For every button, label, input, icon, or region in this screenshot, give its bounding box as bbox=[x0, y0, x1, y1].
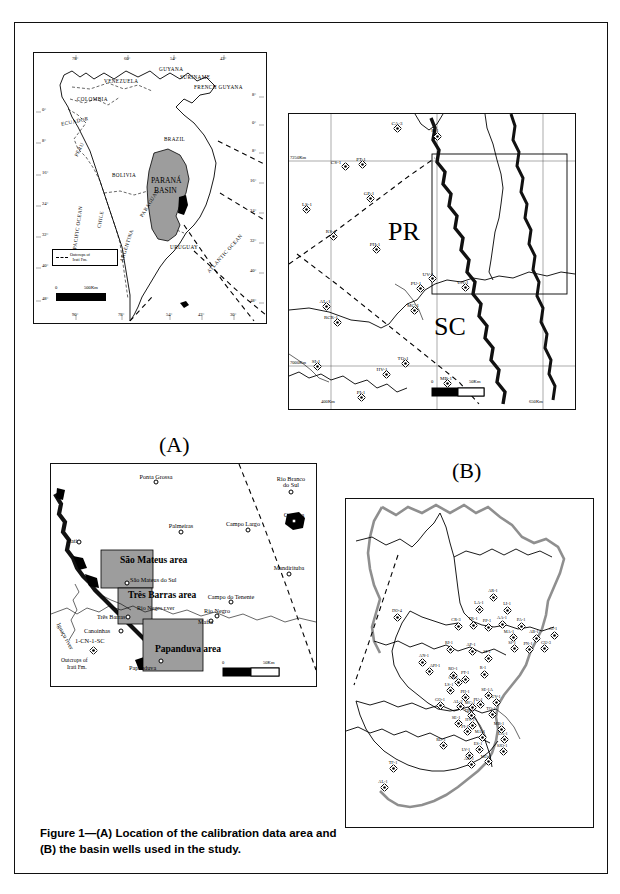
panelb-well-symbol-pp-1[interactable] bbox=[485, 624, 492, 631]
prsc-well-label-pu-1: PU-1 bbox=[411, 281, 422, 286]
prsc-well-label-mc-1: MC-1 bbox=[407, 303, 419, 308]
panelb-well-symbol-la-1[interactable] bbox=[501, 736, 508, 743]
panelb-well-symbol-ls-1[interactable] bbox=[447, 687, 454, 694]
area-label-tres-barras: Três Barras area bbox=[128, 591, 196, 601]
panelb-well-symbol-tf-1[interactable] bbox=[390, 765, 397, 772]
city-marker-papanduva[interactable] bbox=[159, 659, 164, 664]
panelb-well-label-cs-2: CS-2 bbox=[449, 676, 458, 680]
lat-tick-right-32: 32° bbox=[250, 239, 256, 244]
city-marker-ponta-grossa[interactable] bbox=[154, 480, 159, 485]
panelb-well-label-pn-1: PN-1 bbox=[523, 642, 532, 646]
panelb-well-label-al-2: AL-2 bbox=[453, 700, 462, 704]
prsc-well-label-rs-1: RS-1 bbox=[326, 229, 336, 234]
lon-tick-top-78: 78° bbox=[72, 57, 78, 62]
panelb-well-symbol-cr-3[interactable] bbox=[455, 623, 462, 630]
lon-tick-bottom-54: 54° bbox=[166, 313, 172, 318]
panelb-well-symbol-at-1[interactable] bbox=[551, 632, 558, 639]
panelb-well-label-pt-1: PT-1 bbox=[461, 671, 469, 675]
panelb-well-symbol-si-1[interactable] bbox=[485, 655, 492, 662]
panelb-well-symbol-es-1[interactable] bbox=[476, 746, 483, 753]
city-marker-rio-negro[interactable] bbox=[215, 614, 220, 619]
panelb-well-label-mb-1: MB-1 bbox=[494, 722, 504, 726]
prsc-well-label-gp-1: GP-1 bbox=[364, 191, 375, 196]
prsc-well-label-pt-1: PT-1 bbox=[356, 157, 366, 162]
lat-tick-48: 48° bbox=[42, 297, 48, 302]
panelb-well-symbol-ar-1[interactable] bbox=[490, 594, 497, 601]
prsc-well-label-tq-1: TQ-1 bbox=[398, 356, 409, 361]
panelb-well-symbol-rd-1[interactable] bbox=[440, 742, 447, 749]
panelb-well-symbol-sj-1[interactable] bbox=[511, 645, 518, 652]
panelb-well-symbol-li-1[interactable] bbox=[504, 607, 511, 614]
lat-tick-right-0: 0° bbox=[252, 121, 256, 126]
country-label-suriname: SURINAME bbox=[180, 75, 210, 80]
panelb-well-symbol-pn-1[interactable] bbox=[526, 646, 533, 653]
city-label-canoinhas: Canoinhas bbox=[84, 628, 110, 634]
panelb-well-symbol-api-1[interactable] bbox=[426, 668, 433, 675]
panelb-well-symbol-ap-1[interactable] bbox=[469, 648, 476, 655]
panelb-well-symbol-tr-1[interactable] bbox=[470, 622, 477, 629]
lon-tick-top-42: 42° bbox=[220, 57, 226, 62]
panelb-well-label-api-1: API-1 bbox=[430, 664, 441, 668]
city-marker-palmeiras[interactable] bbox=[179, 530, 184, 535]
panelb-well-symbol-do-4[interactable] bbox=[394, 614, 401, 621]
lat-tick-24: 24° bbox=[42, 202, 48, 207]
panelb-well-label-ar-1: AR-1 bbox=[488, 589, 498, 593]
panelb-well-symbol-la-1[interactable] bbox=[476, 606, 483, 613]
panelb-well-label-hv-1: HV-1 bbox=[465, 718, 474, 722]
panelb-well-symbol-sjo-1[interactable] bbox=[500, 748, 507, 755]
state-label-pr: PR bbox=[388, 219, 420, 245]
city-marker-canoinhas[interactable] bbox=[119, 629, 124, 634]
panelb-well-symbol-al-1[interactable] bbox=[381, 784, 388, 791]
prsc-well-label-cn-1: CN-1 bbox=[457, 280, 468, 285]
prsc-well-symbol-r-1[interactable] bbox=[434, 133, 441, 140]
panelb-well-label-la-1: LA-1 bbox=[498, 732, 507, 736]
city-marker-curitiba[interactable] bbox=[292, 519, 297, 524]
panelb-well-label-pa-1: PA-1 bbox=[517, 618, 526, 622]
panelb-well-label-ap-1: AP-1 bbox=[466, 643, 475, 647]
panelb-well-label-la-1: LA-1 bbox=[474, 601, 483, 605]
panelb-well-symbol-ao-1[interactable] bbox=[468, 761, 475, 768]
panelb-well-symbol-ab-1[interactable] bbox=[533, 635, 540, 642]
lat-tick-32: 32° bbox=[42, 233, 48, 238]
panelb-well-symbol-pa-1[interactable] bbox=[518, 623, 525, 630]
panelb-well-symbol-r-1[interactable] bbox=[481, 671, 488, 678]
panelb-well-symbol-go-1[interactable] bbox=[437, 702, 444, 709]
panelb-well-label-sjo-1: SJO-1 bbox=[497, 744, 508, 748]
prsc-well-symbol-cs-1[interactable] bbox=[342, 163, 349, 170]
panelb-well-label-tq-1: TQ-1 bbox=[486, 707, 495, 711]
city-marker-mandirituba[interactable] bbox=[287, 572, 292, 577]
panelb-well-symbol-an-1[interactable] bbox=[419, 659, 426, 666]
legend-line2: Irati Fm. bbox=[73, 257, 88, 262]
country-label-venezuela: VENEZUELA bbox=[104, 79, 138, 84]
city-marker-rio-branco-do-sul[interactable] bbox=[289, 490, 294, 495]
lon-tick-top-60: 60° bbox=[124, 57, 130, 62]
city-label-papanduva: Papanduva bbox=[129, 665, 156, 671]
lon-tick-bottom-42: 42° bbox=[198, 313, 204, 318]
pr-sc-map-panel: PR SC 7250Km 7000Km 400Km 650Km 0 50Km C… bbox=[288, 113, 576, 410]
panelb-well-symbol-tq-1[interactable] bbox=[489, 711, 496, 718]
city-marker-campo-largo[interactable] bbox=[246, 528, 251, 533]
figure-caption: Figure 1—(A) Location of the calibration… bbox=[40, 826, 350, 857]
panelb-well-symbol-uv-1[interactable] bbox=[493, 699, 500, 706]
area-label-papanduva: Papanduva area bbox=[155, 645, 221, 655]
panelb-well-symbol-ri-1[interactable] bbox=[447, 646, 454, 653]
panelb-well-label-ri-1: RI-1 bbox=[445, 641, 453, 645]
city-marker-so-mateus-do-sul[interactable] bbox=[125, 581, 130, 586]
scale-bar-south-america bbox=[56, 293, 106, 301]
lat-tick-right-8: 8° bbox=[252, 149, 256, 154]
prsc-well-label-ph-1: PH-1 bbox=[370, 242, 381, 247]
axis-label-650km: 650Km bbox=[529, 400, 543, 405]
panelb-well-symbol-ma-1[interactable] bbox=[479, 734, 486, 741]
city-marker-campo-do-tenente[interactable] bbox=[229, 600, 234, 605]
panelb-well-symbol-gu-3[interactable] bbox=[541, 645, 548, 652]
panelb-well-symbol-aa-1[interactable] bbox=[499, 621, 506, 628]
state-label-sc: SC bbox=[434, 314, 466, 340]
city-marker-trs-barras[interactable] bbox=[126, 615, 131, 620]
panelb-well-label-es-1: ES-1 bbox=[474, 742, 483, 746]
panelb-well-label-rd-1: RD-1 bbox=[436, 738, 446, 742]
panelb-well-symbol-pt-1[interactable] bbox=[462, 676, 469, 683]
well-symbol-1-cn-1-sc[interactable] bbox=[90, 647, 97, 654]
prsc-scale-zero: 0 bbox=[431, 379, 433, 384]
dashed-line-swatch bbox=[56, 257, 68, 258]
panelb-well-label-ma-1: MA-1 bbox=[475, 730, 486, 734]
